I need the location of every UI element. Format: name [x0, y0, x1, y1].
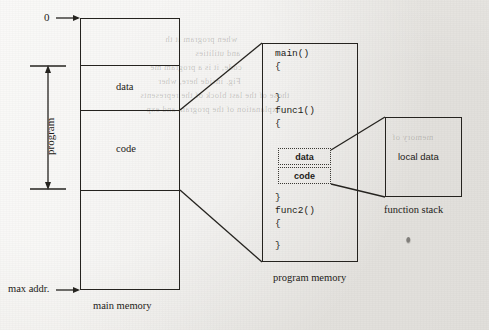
- function-stack-caption: function stack: [384, 204, 443, 215]
- scan-speck: [406, 237, 411, 244]
- program-span-label: program: [44, 118, 56, 155]
- diagram-stage: data code 0 max addr. program main memor…: [0, 0, 489, 330]
- program-memory-inner-code-block: code: [278, 167, 331, 184]
- program-code-line: }: [275, 240, 281, 251]
- program-code-line: {: [275, 218, 281, 229]
- program-code-line: {: [275, 118, 281, 129]
- function-stack-local-data-label: local data: [398, 151, 439, 162]
- program-code-line: }: [275, 92, 281, 103]
- program-memory-inner-data-block: data: [278, 148, 331, 165]
- program-memory-caption: program memory: [273, 272, 346, 283]
- program-code-line: func2(): [275, 205, 315, 216]
- program-code-line: func1(): [275, 105, 315, 116]
- main-memory-caption: main memory: [93, 300, 152, 311]
- program-code-line: main(): [275, 48, 309, 59]
- program-code-line: {: [275, 61, 281, 72]
- program-code-line: }: [275, 192, 281, 203]
